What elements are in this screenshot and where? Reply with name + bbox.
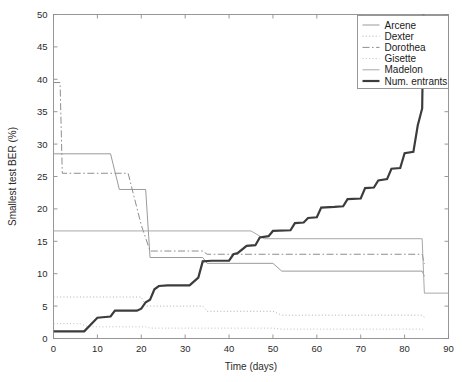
plot-svg: 010203040506070809005101520253035404550T… (0, 0, 462, 382)
legend-label-num-entrants: Num. entrants (385, 76, 448, 87)
x-tick-label: 80 (399, 343, 410, 354)
y-tick-label: 10 (37, 268, 48, 279)
x-tick-label: 40 (224, 343, 235, 354)
series-line-gisette (54, 324, 425, 330)
x-tick-label: 50 (268, 343, 279, 354)
series-line-dorothea (54, 83, 425, 264)
x-axis-title: Time (days) (225, 361, 277, 372)
legend-label-gisette: Gisette (385, 53, 417, 64)
x-tick-label: 60 (312, 343, 323, 354)
y-tick-label: 0 (42, 333, 47, 344)
y-axis-title: Smallest test BER (%) (7, 127, 18, 226)
x-tick-label: 0 (51, 343, 56, 354)
legend-label-dexter: Dexter (385, 31, 415, 42)
series-line-madelon (54, 231, 449, 293)
y-tick-label: 25 (37, 171, 48, 182)
series-line-dexter (54, 297, 425, 317)
x-tick-label: 70 (355, 343, 366, 354)
y-tick-label: 20 (37, 203, 48, 214)
y-tick-label: 45 (37, 41, 48, 52)
y-tick-label: 30 (37, 139, 48, 150)
legend-label-arcene: Arcene (385, 20, 417, 31)
series-line-arcene (54, 154, 425, 276)
y-tick-label: 35 (37, 106, 48, 117)
x-tick-label: 90 (443, 343, 454, 354)
y-tick-label: 5 (42, 301, 47, 312)
x-tick-label: 10 (92, 343, 103, 354)
x-tick-label: 20 (136, 343, 147, 354)
legend-label-madelon: Madelon (385, 64, 423, 75)
x-tick-label: 30 (180, 343, 191, 354)
y-tick-label: 50 (37, 9, 48, 20)
chart-figure: 010203040506070809005101520253035404550T… (0, 0, 462, 382)
legend-label-dorothea: Dorothea (385, 42, 427, 53)
y-tick-label: 40 (37, 74, 48, 85)
y-tick-label: 15 (37, 236, 48, 247)
